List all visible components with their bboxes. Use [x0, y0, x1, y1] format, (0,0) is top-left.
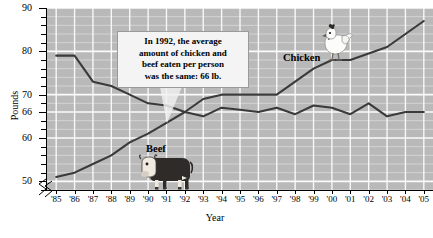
x-tick-mark — [258, 190, 259, 194]
x-tick-mark — [240, 190, 241, 194]
y-tick-mark — [39, 138, 47, 139]
x-tick-mark — [93, 190, 94, 194]
x-tick-mark — [203, 190, 204, 194]
y-minor-tick-mark — [41, 155, 46, 156]
y-minor-tick-mark — [41, 69, 46, 70]
x-axis-title: Year — [185, 212, 245, 223]
x-tick-mark — [222, 190, 223, 194]
x-tick-mark — [166, 190, 167, 194]
x-tick-mark — [314, 190, 315, 194]
y-minor-tick-mark — [41, 60, 46, 61]
y-tick-mark — [39, 51, 47, 52]
x-tick-mark — [350, 190, 351, 194]
x-tick-mark — [332, 190, 333, 194]
x-tick-mark — [387, 190, 388, 194]
series-label-chicken: Chicken — [283, 52, 320, 63]
y-minor-tick-mark — [41, 147, 46, 148]
y-tick-label: 50 — [8, 176, 32, 186]
x-tick-mark — [130, 190, 131, 194]
y-tick-mark — [39, 8, 47, 9]
x-tick-mark — [295, 190, 296, 194]
y-tick-label: 80 — [8, 46, 32, 56]
callout-line-2: amount of chicken and — [121, 48, 245, 60]
y-minor-tick-mark — [41, 77, 46, 78]
chicken-icon — [318, 22, 358, 62]
x-tick-mark — [185, 190, 186, 194]
y-axis-line — [46, 8, 47, 190]
callout-line-1: In 1992, the average — [121, 36, 245, 48]
x-tick-mark — [277, 190, 278, 194]
y-tick-mark — [39, 112, 47, 113]
y-minor-tick-mark — [41, 25, 46, 26]
cow-icon — [138, 152, 194, 190]
y-minor-tick-mark — [41, 103, 46, 104]
y-minor-tick-mark — [41, 173, 46, 174]
y-minor-tick-mark — [41, 86, 46, 87]
y-minor-tick-mark — [41, 34, 46, 35]
x-tick-mark — [75, 190, 76, 194]
callout-line-3: beef eaten per person — [121, 59, 245, 71]
x-tick-mark — [424, 190, 425, 194]
x-tick-mark — [369, 190, 370, 194]
callout-line-4: was the same: 66 lb. — [121, 71, 245, 83]
y-tick-mark — [39, 95, 47, 96]
y-minor-tick-mark — [41, 164, 46, 165]
y-minor-tick-mark — [41, 17, 46, 18]
y-minor-tick-mark — [41, 129, 46, 130]
x-tick-mark — [111, 190, 112, 194]
crossover-callout: In 1992, the average amount of chicken a… — [117, 31, 249, 88]
y-minor-tick-mark — [41, 43, 46, 44]
axis-break-icon — [36, 178, 58, 198]
chart-container: 908070666050 '85'86'87'88'89'90'91'92'93… — [0, 0, 433, 238]
x-tick-mark — [148, 190, 149, 194]
x-tick-mark — [405, 190, 406, 194]
y-tick-label: 90 — [8, 3, 32, 13]
y-axis-title: Pounds — [9, 76, 20, 136]
y-minor-tick-mark — [41, 121, 46, 122]
x-tick-label: '05 — [412, 195, 433, 204]
